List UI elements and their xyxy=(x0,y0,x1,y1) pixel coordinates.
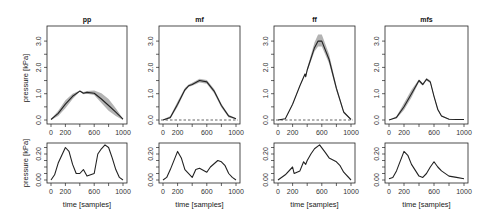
y-tick-label: 2.0 xyxy=(35,62,42,72)
std-line xyxy=(278,145,351,180)
y-tick-label: 3.0 xyxy=(35,36,42,46)
panel-mf: mf0.01.02.03.0020060010000.000.200200600… xyxy=(147,16,244,209)
x-tick-label: 0 xyxy=(49,129,53,136)
axes-box-bottom xyxy=(159,143,240,183)
y-tick-label: 3.0 xyxy=(262,36,269,46)
x-tick-label: 200 xyxy=(60,129,72,136)
x-tick-label: 600 xyxy=(201,188,213,195)
x-tick-label: 1000 xyxy=(228,129,244,136)
x-tick-label: 600 xyxy=(428,188,440,195)
y-tick-label: 0.20 xyxy=(262,147,269,161)
x-tick-label: 200 xyxy=(287,129,299,136)
axes-box xyxy=(385,26,468,124)
panel-mfs: mfs0.01.02.03.0020060010000.000.20020060… xyxy=(373,16,472,209)
mean-line xyxy=(278,41,351,120)
panel-title: mf xyxy=(195,16,204,23)
y-tick-label: 2.0 xyxy=(147,62,154,72)
panel-title: mfs xyxy=(420,16,433,23)
x-tick-label: 1000 xyxy=(456,188,472,195)
y-tick-label: 0.0 xyxy=(262,115,269,125)
x-tick-label: 600 xyxy=(88,188,100,195)
axes-box xyxy=(159,26,240,124)
x-tick-label: 0 xyxy=(161,129,165,136)
std-line xyxy=(51,145,123,180)
y-tick-label: 0.0 xyxy=(147,115,154,125)
panel-ff: ff0.01.02.03.0020060010000.000.200200600… xyxy=(262,16,359,209)
x-axis-label: time [samples] xyxy=(175,200,223,209)
panel-title: ff xyxy=(312,16,317,23)
y-tick-label: 1.0 xyxy=(147,89,154,99)
x-tick-label: 600 xyxy=(316,188,328,195)
y-axis-label-bottom: pressure [kPa] xyxy=(21,139,30,187)
y-tick-label: 0.0 xyxy=(35,115,42,125)
y-tick-label: 0.20 xyxy=(35,147,42,161)
x-tick-label: 1000 xyxy=(115,129,131,136)
x-tick-label: 0 xyxy=(276,188,280,195)
y-tick-label: 3.0 xyxy=(373,36,380,46)
x-tick-label: 200 xyxy=(172,188,184,195)
panel-title: pp xyxy=(83,16,92,24)
x-tick-label: 600 xyxy=(201,129,213,136)
panel-pp: pp0.01.02.03.0020060010000.000.200200600… xyxy=(35,16,131,209)
y-tick-label: 0.00 xyxy=(35,173,42,187)
x-tick-label: 0 xyxy=(276,129,280,136)
y-tick-label: 2.0 xyxy=(373,62,380,72)
x-tick-label: 1000 xyxy=(115,188,131,195)
confidence-band xyxy=(163,79,236,120)
x-tick-label: 600 xyxy=(428,129,440,136)
x-tick-label: 0 xyxy=(387,129,391,136)
confidence-band xyxy=(51,91,123,121)
x-tick-label: 200 xyxy=(60,188,72,195)
x-axis-label: time [samples] xyxy=(402,200,450,209)
std-line xyxy=(163,151,236,180)
mean-line xyxy=(163,81,236,121)
x-tick-label: 1000 xyxy=(228,188,244,195)
axes-box-bottom xyxy=(47,143,127,183)
y-tick-label: 0.00 xyxy=(262,173,269,187)
y-tick-label: 2.0 xyxy=(262,62,269,72)
x-tick-label: 0 xyxy=(161,188,165,195)
y-tick-label: 0.0 xyxy=(373,115,380,125)
x-tick-label: 0 xyxy=(387,188,391,195)
x-tick-label: 1000 xyxy=(456,129,472,136)
x-tick-label: 600 xyxy=(88,129,100,136)
y-tick-label: 1.0 xyxy=(262,89,269,99)
y-tick-label: 0.20 xyxy=(147,147,154,161)
y-tick-label: 1.0 xyxy=(35,89,42,99)
x-tick-label: 200 xyxy=(398,129,410,136)
x-axis-label: time [samples] xyxy=(63,200,111,209)
y-tick-label: 3.0 xyxy=(147,36,154,46)
x-tick-label: 0 xyxy=(49,188,53,195)
y-tick-label: 0.00 xyxy=(373,173,380,187)
y-tick-label: 0.20 xyxy=(373,147,380,161)
y-tick-label: 0.00 xyxy=(147,173,154,187)
x-tick-label: 200 xyxy=(398,188,410,195)
confidence-band xyxy=(389,78,464,120)
x-tick-label: 1000 xyxy=(343,188,359,195)
x-tick-label: 200 xyxy=(287,188,299,195)
y-tick-label: 1.0 xyxy=(373,89,380,99)
x-tick-label: 1000 xyxy=(343,129,359,136)
x-axis-label: time [samples] xyxy=(290,200,338,209)
x-tick-label: 600 xyxy=(316,129,328,136)
y-axis-label: pressure [kPa] xyxy=(21,54,30,102)
std-line xyxy=(389,151,464,178)
x-tick-label: 200 xyxy=(172,129,184,136)
figure: pp0.01.02.03.0020060010000.000.200200600… xyxy=(0,0,498,223)
